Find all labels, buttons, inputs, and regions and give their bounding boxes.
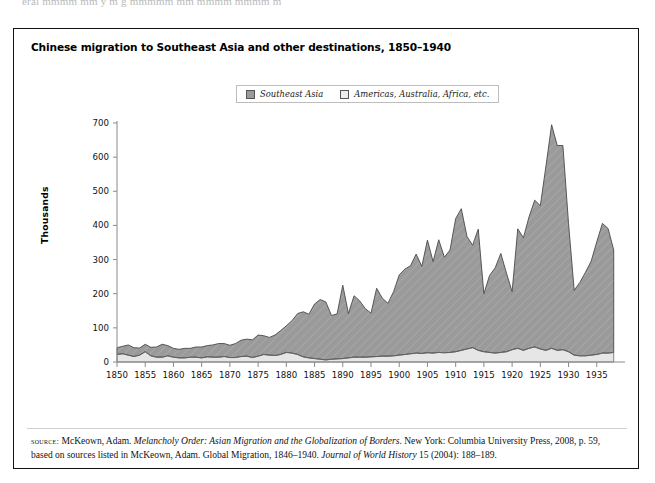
source-text-a: McKeown, Adam. bbox=[59, 436, 134, 446]
y-tick-label: 400 bbox=[93, 220, 109, 230]
x-tick-label: 1930 bbox=[558, 370, 580, 380]
x-tick-label: 1855 bbox=[134, 370, 156, 380]
page-text-fragment: eral mmmm mm y m g mmmmm mm mmmm mmmm m bbox=[22, 0, 452, 9]
y-tick-label: 600 bbox=[93, 152, 109, 162]
chart-legend: Southeast Asia Americas, Australia, Afri… bbox=[236, 85, 499, 103]
legend-label-americas-australia-africa: Americas, Australia, Africa, etc. bbox=[354, 89, 489, 99]
x-tick-label: 1905 bbox=[417, 370, 439, 380]
x-tick-label: 1875 bbox=[247, 370, 269, 380]
y-tick-label: 700 bbox=[93, 118, 109, 128]
x-tick-label: 1910 bbox=[445, 370, 467, 380]
source-divider bbox=[27, 428, 627, 429]
stacked-area-chart: 0100200300400500600700185018551860186518… bbox=[14, 117, 640, 417]
legend-label-southeast-asia: Southeast Asia bbox=[260, 89, 323, 99]
figure-container: Chinese migration to Southeast Asia and … bbox=[13, 28, 639, 469]
legend-swatch-americas-australia-africa bbox=[340, 90, 349, 99]
x-tick-label: 1870 bbox=[219, 370, 241, 380]
x-tick-label: 1860 bbox=[163, 370, 185, 380]
x-tick-label: 1900 bbox=[388, 370, 410, 380]
y-tick-label: 500 bbox=[93, 186, 109, 196]
x-tick-label: 1935 bbox=[586, 370, 608, 380]
plot-area: 0100200300400500600700185018551860186518… bbox=[14, 117, 640, 417]
y-tick-label: 200 bbox=[93, 289, 109, 299]
x-tick-label: 1895 bbox=[360, 370, 382, 380]
y-tick-label: 100 bbox=[93, 323, 109, 333]
x-tick-label: 1915 bbox=[473, 370, 495, 380]
legend-item-southeast-asia: Southeast Asia bbox=[246, 89, 323, 99]
y-tick-label: 0 bbox=[104, 357, 109, 367]
source-title-italic: Melancholy Order: Asian Migration and th… bbox=[134, 436, 400, 446]
legend-item-americas-australia-africa: Americas, Australia, Africa, etc. bbox=[340, 89, 489, 99]
source-text-d: 15 (2004): 188–189. bbox=[417, 450, 497, 460]
x-tick-label: 1890 bbox=[332, 370, 354, 380]
x-tick-label: 1880 bbox=[275, 370, 297, 380]
source-note: source: McKeown, Adam. Melancholy Order:… bbox=[31, 435, 623, 462]
legend-swatch-southeast-asia bbox=[246, 90, 255, 99]
source-kicker: source: bbox=[31, 436, 59, 446]
x-tick-label: 1885 bbox=[304, 370, 326, 380]
x-tick-label: 1925 bbox=[529, 370, 551, 380]
x-tick-label: 1920 bbox=[501, 370, 523, 380]
figure-title: Chinese migration to Southeast Asia and … bbox=[31, 41, 451, 53]
x-tick-label: 1865 bbox=[191, 370, 213, 380]
x-tick-label: 1850 bbox=[106, 370, 128, 380]
y-tick-label: 300 bbox=[93, 255, 109, 265]
source-text-b: . New York: Columbia University Press, 2… bbox=[399, 436, 576, 446]
source-journal-italic: Journal of World History bbox=[321, 450, 416, 460]
area-southeast-asia bbox=[117, 125, 614, 360]
